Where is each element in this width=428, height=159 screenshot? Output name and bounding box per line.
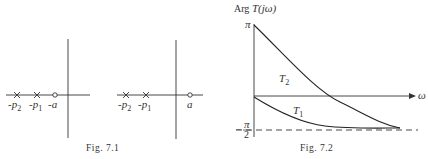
- label-neg-a: -a: [48, 98, 58, 110]
- fig-7-1-caption: Fig. 7.1: [86, 143, 119, 153]
- curve-T1: [254, 97, 400, 128]
- fig-7-1-right-labels: -p2 -p1 a: [118, 98, 193, 113]
- y-axis-label: Arg T(jω): [234, 2, 276, 15]
- svg-text:2: 2: [244, 129, 249, 140]
- curve-T2: [254, 25, 400, 128]
- x-axis-label-omega: ω: [418, 89, 426, 101]
- fig-7-1-right-diagram: [117, 40, 203, 139]
- zero-circle-icon: [188, 93, 192, 97]
- y-tick-pi: π: [245, 18, 251, 30]
- y-tick-neg-pi-over-2: − π 2: [236, 118, 251, 140]
- zero-circle-icon: [53, 93, 57, 97]
- fig-7-2-caption: Fig. 7.2: [300, 143, 333, 153]
- fig-7-1-left-labels: -p2 -p1 -a: [8, 98, 58, 113]
- curve-label-T1: T1: [293, 104, 303, 119]
- fig-7-2-axes: [236, 24, 418, 137]
- label-neg-p2: -p2: [8, 98, 21, 113]
- figures-canvas: -p2 -p1 -a -p2 -p1 a Fig. 7.1 Arg T(jω) …: [0, 0, 428, 159]
- curve-label-T2: T2: [279, 72, 289, 87]
- label-a: a: [187, 98, 193, 110]
- x-axis-arrow-icon: [409, 93, 416, 99]
- label-neg-p2: -p2: [118, 98, 131, 113]
- label-neg-p1: -p1: [29, 98, 42, 113]
- svg-text:−: −: [236, 124, 242, 135]
- fig-7-1-left-diagram: [6, 39, 90, 138]
- fig-7-2-curves: [254, 25, 400, 128]
- label-neg-p1: -p1: [138, 98, 151, 113]
